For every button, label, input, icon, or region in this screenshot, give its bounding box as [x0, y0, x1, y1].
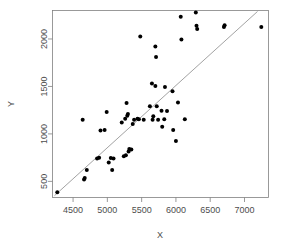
x-tick-label: 6000 [166, 205, 186, 215]
data-point [99, 129, 103, 133]
data-point [81, 118, 85, 122]
data-point [153, 84, 157, 88]
data-point [223, 23, 227, 27]
y-tick-label: 1000 [40, 124, 50, 144]
data-point [142, 118, 146, 122]
y-axis-title: Y [6, 101, 16, 107]
data-point [163, 85, 167, 89]
x-tick-label: 7000 [234, 205, 254, 215]
data-point [179, 15, 183, 19]
data-point [138, 35, 142, 39]
data-point [171, 128, 175, 132]
data-point [110, 168, 114, 172]
data-point [160, 125, 164, 129]
x-axis-title: X [157, 230, 163, 240]
data-point [125, 101, 129, 105]
data-point [132, 118, 136, 122]
data-point [120, 121, 124, 125]
data-point [126, 112, 130, 116]
data-point [151, 114, 155, 118]
data-point [195, 24, 199, 28]
data-point [179, 37, 183, 41]
data-point [162, 117, 166, 121]
data-point [55, 190, 59, 194]
data-point [183, 117, 187, 121]
y-tick-label: 1500 [40, 76, 50, 96]
data-point [107, 160, 111, 164]
data-point [148, 104, 152, 108]
data-point [155, 104, 159, 108]
plot-canvas: 450050005500600065007000 500100015002000… [0, 0, 283, 246]
data-point [129, 148, 133, 152]
data-point [153, 45, 157, 49]
data-point [160, 109, 164, 113]
data-point [103, 128, 107, 132]
data-point [151, 118, 155, 122]
y-tick-label: 500 [40, 174, 50, 189]
data-point [112, 157, 116, 161]
x-tick-label: 6500 [200, 205, 220, 215]
data-point [194, 10, 198, 14]
data-point [154, 55, 158, 59]
data-point [171, 89, 175, 93]
data-point [156, 118, 160, 122]
scatter-plot-figure: 450050005500600065007000 500100015002000… [0, 0, 283, 246]
y-tick-label: 2000 [40, 29, 50, 49]
data-point [176, 101, 180, 105]
x-tick-label: 5500 [132, 205, 152, 215]
data-point [85, 168, 89, 172]
data-point [83, 176, 87, 180]
data-point [124, 153, 128, 157]
data-point [137, 117, 141, 121]
x-tick-label: 4500 [63, 205, 83, 215]
data-point [165, 109, 169, 113]
data-point [97, 156, 101, 160]
data-point [259, 25, 263, 29]
data-point [150, 82, 154, 86]
data-point [105, 110, 109, 114]
data-point [131, 122, 135, 126]
data-point [174, 139, 178, 143]
data-point [195, 27, 199, 31]
x-tick-label: 5000 [97, 205, 117, 215]
